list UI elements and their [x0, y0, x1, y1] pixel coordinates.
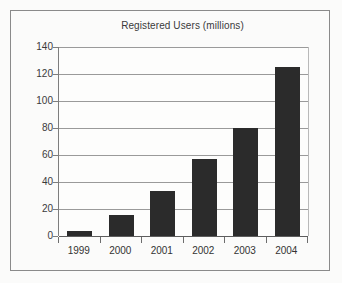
y-axis-tick-label: 40	[19, 176, 53, 187]
y-axis-tick-mark	[53, 209, 58, 210]
y-axis-tick-mark	[53, 101, 58, 102]
y-axis-tick-mark	[53, 74, 58, 75]
x-axis-line	[59, 236, 308, 237]
x-axis-tick-label: 2004	[266, 245, 308, 256]
bar	[109, 215, 134, 236]
bar	[233, 128, 258, 236]
x-axis-tick-label: 1999	[58, 245, 100, 256]
x-axis-tick-mark	[141, 237, 142, 243]
y-axis-tick-mark	[53, 47, 58, 48]
x-axis-tick-mark	[224, 237, 225, 243]
x-axis-tick-mark	[307, 237, 308, 243]
bar	[150, 191, 175, 236]
plot-area	[58, 47, 309, 236]
y-axis-tick-label: 80	[19, 122, 53, 133]
gridline	[59, 101, 308, 102]
bar	[67, 231, 92, 236]
x-axis-tick-label: 2003	[224, 245, 266, 256]
x-axis-tick-mark	[100, 237, 101, 243]
y-axis-tick-mark	[53, 155, 58, 156]
y-axis-tick-mark	[53, 182, 58, 183]
bar	[275, 67, 300, 236]
y-axis-tick-label: 120	[19, 68, 53, 79]
gridline	[59, 47, 308, 48]
gridline	[59, 155, 308, 156]
chart-title: Registered Users (millions)	[58, 20, 307, 31]
x-axis-tick-mark	[58, 237, 59, 243]
y-axis-tick-label: 140	[19, 41, 53, 52]
gridline	[59, 209, 308, 210]
x-axis-tick-label: 2000	[100, 245, 142, 256]
x-axis-tick-label: 2001	[141, 245, 183, 256]
y-axis-tick-label: 0	[19, 230, 53, 241]
x-axis-tick-mark	[266, 237, 267, 243]
chart-figure: Registered Users (millions) 020406080100…	[0, 0, 342, 283]
x-axis-tick-label: 2002	[183, 245, 225, 256]
y-axis-tick-label: 20	[19, 203, 53, 214]
y-axis-tick-mark	[53, 128, 58, 129]
gridline	[59, 182, 308, 183]
bar	[192, 159, 217, 236]
gridline	[59, 74, 308, 75]
y-axis-tick-label: 60	[19, 149, 53, 160]
gridline	[59, 128, 308, 129]
y-axis-tick-label: 100	[19, 95, 53, 106]
x-axis-tick-mark	[183, 237, 184, 243]
